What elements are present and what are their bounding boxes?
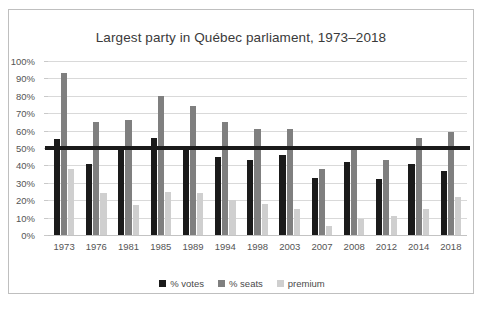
bar-premium-1994[interactable] — [229, 200, 235, 235]
bar-votes-2008[interactable] — [344, 162, 350, 235]
x-axis-label-2008: 2008 — [338, 241, 370, 252]
bar-premium-1973[interactable] — [68, 169, 74, 235]
bar-seats-1985[interactable] — [158, 96, 164, 235]
bar-seats-1989[interactable] — [190, 106, 196, 235]
y-axis-label: 10% — [0, 212, 35, 223]
y-axis-label: 0% — [0, 230, 35, 241]
bar-votes-1985[interactable] — [151, 138, 157, 235]
legend-swatch-icon — [277, 280, 284, 287]
bar-premium-1976[interactable] — [100, 193, 106, 235]
legend-label: premium — [288, 278, 325, 289]
bar-votes-2014[interactable] — [408, 164, 414, 235]
fifty-percent-reference-line — [45, 146, 470, 150]
bar-premium-2008[interactable] — [358, 219, 364, 235]
bar-premium-1981[interactable] — [133, 205, 139, 235]
x-axis-label-1985: 1985 — [145, 241, 177, 252]
bar-seats-2014[interactable] — [416, 138, 422, 235]
bar-votes-1989[interactable] — [183, 148, 189, 235]
y-axis-label: 80% — [0, 90, 35, 101]
x-axis-label-1989: 1989 — [177, 241, 209, 252]
bar-votes-2003[interactable] — [279, 155, 285, 235]
x-axis-label-2014: 2014 — [403, 241, 435, 252]
y-axis-label: 40% — [0, 160, 35, 171]
legend-label: % seats — [229, 278, 263, 289]
y-axis-label: 100% — [0, 56, 35, 67]
gridline — [48, 235, 467, 236]
x-axis-label-1994: 1994 — [209, 241, 241, 252]
y-axis-label: 50% — [0, 143, 35, 154]
bar-votes-1994[interactable] — [215, 157, 221, 235]
legend-item-premium[interactable]: premium — [277, 278, 325, 289]
bar-votes-2007[interactable] — [312, 178, 318, 235]
bar-seats-2012[interactable] — [383, 160, 389, 235]
y-axis-label: 60% — [0, 125, 35, 136]
legend-swatch-icon — [159, 280, 166, 287]
bar-votes-2012[interactable] — [376, 179, 382, 235]
x-axis-label-2007: 2007 — [306, 241, 338, 252]
bar-seats-1994[interactable] — [222, 122, 228, 235]
y-axis-label: 30% — [0, 177, 35, 188]
bar-votes-1973[interactable] — [54, 139, 60, 235]
bar-votes-1981[interactable] — [118, 150, 124, 235]
legend-item-votes[interactable]: % votes — [159, 278, 204, 289]
x-axis-label-1973: 1973 — [48, 241, 80, 252]
bar-seats-1976[interactable] — [93, 122, 99, 235]
y-axis-label: 70% — [0, 108, 35, 119]
bar-premium-1989[interactable] — [197, 193, 203, 235]
chart-legend: % votes% seatspremium — [9, 278, 475, 289]
legend-item-seats[interactable]: % seats — [218, 278, 263, 289]
bar-votes-1976[interactable] — [86, 164, 92, 235]
legend-swatch-icon — [218, 280, 225, 287]
y-axis-label: 90% — [0, 73, 35, 84]
bar-votes-1998[interactable] — [247, 160, 253, 235]
bar-seats-1998[interactable] — [254, 129, 260, 235]
bar-premium-2014[interactable] — [423, 209, 429, 235]
x-axis-label-2003: 2003 — [274, 241, 306, 252]
y-axis-label: 20% — [0, 195, 35, 206]
x-axis-label-1976: 1976 — [80, 241, 112, 252]
chart-card: Largest party in Québec parliament, 1973… — [8, 9, 474, 294]
plot-area: 100%90%80%70%60%50%40%30%20%10%0% 197319… — [48, 61, 467, 235]
y-tick-mark — [44, 235, 48, 236]
x-axis-label-2012: 2012 — [370, 241, 402, 252]
bar-premium-1998[interactable] — [262, 204, 268, 235]
bar-seats-2008[interactable] — [351, 146, 357, 235]
bar-seats-2007[interactable] — [319, 169, 325, 235]
plot-wrapper: 100%90%80%70%60%50%40%30%20%10%0% 197319… — [9, 10, 475, 295]
legend-label: % votes — [170, 278, 204, 289]
bar-seats-1973[interactable] — [61, 73, 67, 235]
x-axis-label-1998: 1998 — [241, 241, 273, 252]
bar-premium-2003[interactable] — [294, 209, 300, 235]
bar-premium-1985[interactable] — [165, 192, 171, 236]
x-axis-label-1981: 1981 — [112, 241, 144, 252]
bar-seats-2003[interactable] — [287, 129, 293, 235]
bar-premium-2018[interactable] — [455, 197, 461, 235]
x-axis-label-2018: 2018 — [435, 241, 467, 252]
bar-premium-2012[interactable] — [391, 216, 397, 235]
bar-premium-2007[interactable] — [326, 226, 332, 235]
bar-votes-2018[interactable] — [441, 171, 447, 235]
bar-seats-1981[interactable] — [125, 120, 131, 235]
